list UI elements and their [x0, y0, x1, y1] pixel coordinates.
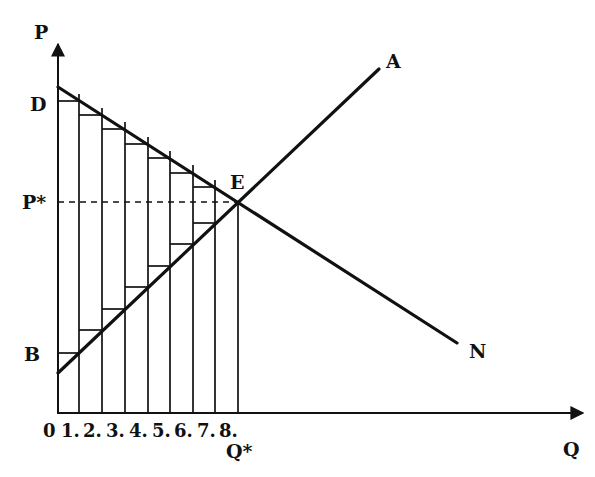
supply-steps: [58, 223, 215, 353]
quantity-bars: [79, 94, 238, 413]
tick-6: 6.: [174, 420, 193, 441]
supply-curve: [58, 69, 379, 373]
tick-7: 7.: [197, 420, 216, 441]
demand-intercept-label: D: [30, 93, 46, 115]
tick-4: 4.: [129, 420, 148, 441]
y-axis-label: P: [34, 21, 48, 43]
tick-1: 1.: [61, 420, 80, 441]
equilibrium-quantity-label: Q*: [226, 440, 253, 462]
tick-2: 2.: [83, 420, 102, 441]
equilibrium-point-label: E: [230, 171, 244, 193]
tick-3: 3.: [106, 420, 125, 441]
equilibrium-price-label: P*: [22, 191, 46, 213]
tick-8: 8.: [219, 420, 238, 441]
supply-demand-diagram: P Q D P* B A N E 0 1. 2. 3. 4. 5. 6. 7. …: [0, 0, 595, 477]
tick-5: 5.: [152, 420, 171, 441]
quantity-tick-labels: 1. 2. 3. 4. 5. 6. 7. 8.: [61, 420, 238, 441]
x-axis-label: Q: [563, 438, 580, 460]
supply-end-label: A: [385, 50, 401, 72]
demand-curve: [58, 87, 457, 343]
demand-end-label: N: [469, 340, 486, 362]
origin-label: 0: [43, 420, 56, 441]
supply-intercept-label: B: [24, 343, 40, 365]
